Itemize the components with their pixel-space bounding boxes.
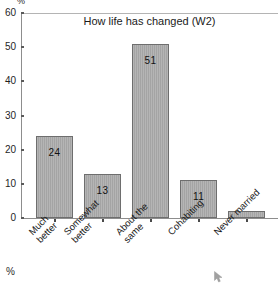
x-label-never-married: Never married bbox=[212, 187, 262, 237]
x-axis-labels: Much better Somewhat better About the sa… bbox=[0, 0, 280, 291]
x-label-somewhat-better: Somewhat better bbox=[62, 198, 109, 245]
x-label-much-better: Much better bbox=[27, 213, 59, 245]
x-label-cohabiting: Cohabiting bbox=[166, 198, 206, 238]
x-label-about-the-same: About the same bbox=[114, 201, 158, 245]
cursor-arrow-icon bbox=[214, 271, 223, 283]
x-label-line: Never married bbox=[212, 187, 262, 237]
y-axis-unit-bottom: % bbox=[6, 266, 15, 278]
x-label-line: Cohabiting bbox=[166, 198, 206, 238]
chart-page: % How life has changed (W2) 60 50 40 30 … bbox=[0, 0, 280, 291]
